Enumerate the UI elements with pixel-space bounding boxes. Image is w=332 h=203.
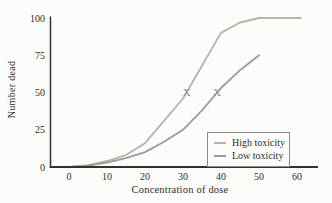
toxicity-dose-response-chart: XX02550751000102030405060 Number dead Co…	[0, 0, 332, 203]
x-tick-label: 10	[102, 171, 112, 182]
x-tick-label: 50	[254, 171, 264, 182]
low-toxicity-line-swatch	[214, 155, 226, 157]
y-tick-label: 25	[35, 124, 45, 135]
x-tick-label: 0	[67, 171, 72, 182]
y-tick-label: 0	[40, 162, 45, 173]
legend-item-low-toxicity: Low toxicity	[214, 150, 289, 162]
chart-svg: XX02550751000102030405060	[0, 0, 332, 203]
x-tick-label: 40	[216, 171, 226, 182]
y-tick-label: 50	[35, 87, 45, 98]
legend-label-low-toxicity: Low toxicity	[232, 150, 283, 162]
legend-label-high-toxicity: High toxicity	[232, 137, 285, 149]
y-tick-label: 75	[35, 50, 45, 61]
x-tick-label: 30	[178, 171, 188, 182]
high-toxicity-line-swatch	[214, 142, 226, 144]
ld50-marker: X	[183, 86, 191, 98]
y-axis-title: Number dead	[6, 30, 17, 150]
x-tick-label: 20	[140, 171, 150, 182]
y-tick-label: 100	[30, 13, 45, 24]
legend-item-high-toxicity: High toxicity	[214, 137, 289, 149]
ld50-marker: X	[213, 86, 221, 98]
x-tick-label: 60	[292, 171, 302, 182]
x-axis-title: Concentration of dose	[42, 184, 318, 195]
legend: High toxicity Low toxicity	[207, 132, 290, 167]
